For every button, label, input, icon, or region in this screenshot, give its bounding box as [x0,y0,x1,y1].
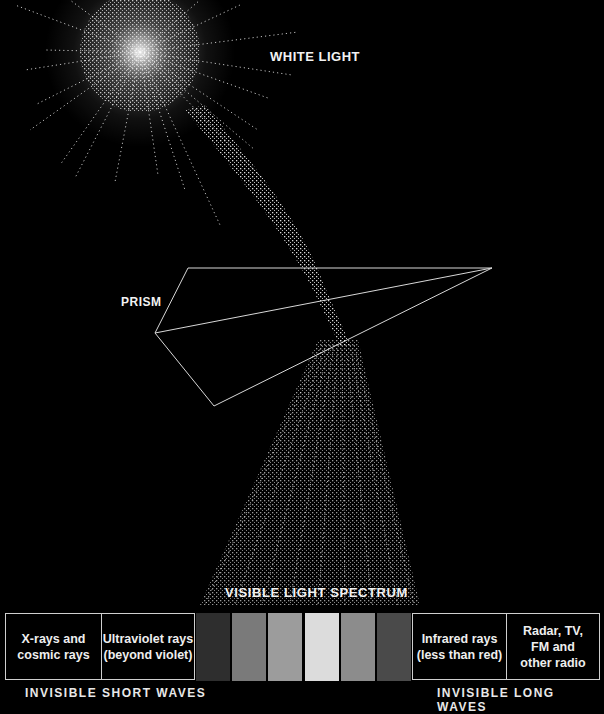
box-line: (beyond violet) [103,647,193,663]
box-line: (less than red) [417,647,502,663]
visible-spectrum-label: VISIBLE LIGHT SPECTRUM [225,585,408,600]
spectrum-band-5 [341,613,375,681]
box-line: Radar, TV, [520,623,585,639]
white-light-label: WHITE LIGHT [270,49,360,64]
prism-label: PRISM [121,295,162,309]
spectrum-band-6 [377,613,411,681]
box-line: Ultraviolet rays [103,631,193,647]
spectrum-band-4 [305,613,339,681]
light-beam [185,105,350,345]
infrared-box: Infrared rays (less than red) [412,613,507,680]
box-line: cosmic rays [17,647,89,663]
invisible-long-waves-label: INVISIBLE LONG WAVES [437,686,604,714]
box-line: X-rays and [17,631,89,647]
box-line: Infrared rays [417,631,502,647]
box-line: other radio [520,655,585,671]
invisible-short-waves-label: INVISIBLE SHORT WAVES [25,686,206,700]
xray-cosmic-box: X-rays and cosmic rays [5,613,102,680]
spectrum-band-2 [232,613,266,681]
ultraviolet-box: Ultraviolet rays (beyond violet) [101,613,195,680]
spectrum-band-1 [196,613,230,681]
spectrum-band-3 [268,613,302,681]
radio-box: Radar, TV, FM and other radio [506,613,600,680]
dispersed-light-fan [200,340,420,605]
box-line: FM and [520,639,585,655]
